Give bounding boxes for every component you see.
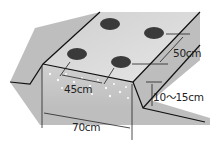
label-bed-width: 70cm <box>72 121 100 133</box>
label-plant-spacing-along: 50cm <box>173 47 201 59</box>
plant-hole <box>144 27 164 39</box>
plant-hole <box>67 48 87 60</box>
bed-illustration <box>0 0 210 147</box>
label-plant-spacing-across: 45cm <box>64 83 92 95</box>
plant-hole <box>100 18 120 30</box>
raised-bed-diagram: 45cm 50cm 10〜15cm 70cm <box>0 0 210 147</box>
label-bed-height: 10〜15cm <box>153 89 204 104</box>
plant-hole <box>111 56 131 68</box>
